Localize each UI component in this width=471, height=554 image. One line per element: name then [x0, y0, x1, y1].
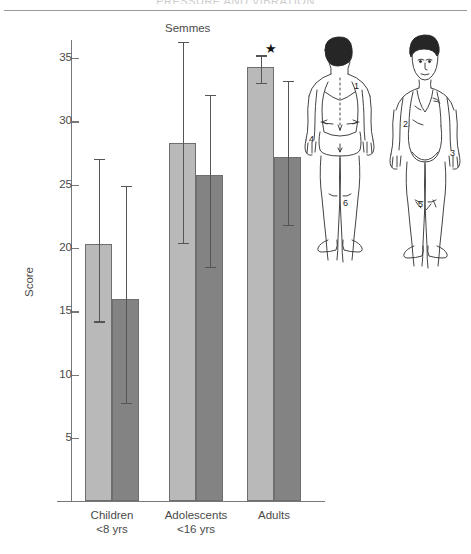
y-axis-tick-label-wrap: 30	[34, 115, 72, 126]
x-axis-label-line: Adults	[225, 508, 323, 522]
y-axis-tick	[72, 248, 79, 249]
site-label-5: 5	[418, 199, 423, 209]
y-axis-tick-label: 30	[46, 115, 72, 126]
y-axis-tick-label-wrap: 35	[34, 52, 72, 63]
error-bar-light-1	[183, 42, 184, 243]
error-bar-light-2	[261, 55, 262, 83]
y-axis-tick	[72, 185, 79, 186]
error-cap-upper	[205, 95, 216, 96]
x-axis-line	[57, 501, 325, 502]
y-axis-tick-label-wrap: 15	[34, 305, 72, 316]
x-axis-label-line: <16 yrs	[147, 522, 245, 536]
y-axis-tick-label-wrap: 5	[34, 432, 72, 443]
error-bar-dark-0	[126, 186, 127, 403]
error-bar-dark-2	[288, 81, 289, 225]
y-axis-tick-label-wrap: 20	[34, 242, 72, 253]
y-axis-tick-label: 15	[46, 305, 72, 316]
error-cap-lower	[205, 267, 216, 268]
error-bar-light-0	[99, 159, 100, 321]
y-axis-tick-label-wrap: 25	[34, 179, 72, 190]
error-cap-upper	[121, 186, 132, 187]
error-cap-lower	[283, 225, 294, 226]
y-axis-tick	[72, 375, 79, 376]
anterior-figure: 2 3 5	[390, 35, 460, 268]
y-axis-tick-label: 35	[46, 52, 72, 63]
posterior-figure: 1 4 6	[305, 37, 374, 262]
error-cap-upper	[94, 159, 105, 160]
error-cap-upper	[283, 81, 294, 82]
error-cap-lower	[178, 243, 189, 244]
bar-light-2[interactable]	[247, 67, 274, 501]
site-label-4: 4	[309, 134, 314, 144]
body-diagram-illustration: 1 4 6	[303, 34, 471, 286]
figure-panel: PRESSURE AND VIBRATION Score 51015202530…	[0, 0, 471, 554]
y-axis-tick-label: 5	[46, 432, 72, 443]
y-axis-tick-label-wrap: 10	[34, 369, 72, 380]
site-label-6: 6	[343, 198, 348, 208]
annotation-semmes: Semmes	[165, 22, 210, 34]
x-axis-group-label-2: Adults	[225, 508, 323, 522]
y-axis-tick	[72, 438, 79, 439]
error-bar-dark-1	[210, 95, 211, 267]
error-cap-lower	[121, 403, 132, 404]
y-axis-tick	[72, 311, 79, 312]
body-diagram-svg: 1 4 6	[303, 34, 471, 286]
y-axis-tick	[72, 121, 79, 122]
site-label-1: 1	[354, 81, 359, 91]
error-cap-lower	[94, 321, 105, 322]
y-axis-tick	[72, 58, 79, 59]
site-label-3: 3	[450, 148, 455, 158]
significance-star: ★	[265, 42, 277, 55]
y-axis-tick-label: 10	[46, 369, 72, 380]
y-axis-tick-label: 20	[46, 242, 72, 253]
site-label-2: 2	[403, 119, 408, 129]
error-cap-lower	[256, 83, 267, 84]
y-axis-tick-label: 25	[46, 179, 72, 190]
error-cap-upper	[178, 42, 189, 43]
